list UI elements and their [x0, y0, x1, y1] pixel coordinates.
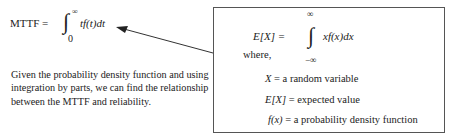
- definition-symbol: E[X]: [265, 94, 286, 105]
- integral-upper-limit: ∞: [307, 9, 313, 19]
- definition-symbol: f(x): [268, 114, 283, 125]
- integral-lower-limit: −∞: [305, 55, 317, 65]
- definition-text: = a random variable: [271, 73, 358, 84]
- where-label: where,: [243, 49, 271, 60]
- definition-x: X = a random variable: [265, 73, 358, 84]
- definition-text: = expected value: [286, 94, 360, 105]
- integral-sign: ∫: [308, 25, 314, 47]
- definition-text: = a probability density function: [283, 114, 418, 125]
- integrand: xf(x)dx: [323, 30, 354, 42]
- expectation-lhs: E[X] =: [253, 30, 285, 42]
- definition-ex: E[X] = expected value: [265, 94, 360, 105]
- expected-value-formula: E[X] = ∞ ∫ −∞ xf(x)dx: [253, 30, 285, 42]
- definition-fx: f(x) = a probability density function: [268, 114, 418, 125]
